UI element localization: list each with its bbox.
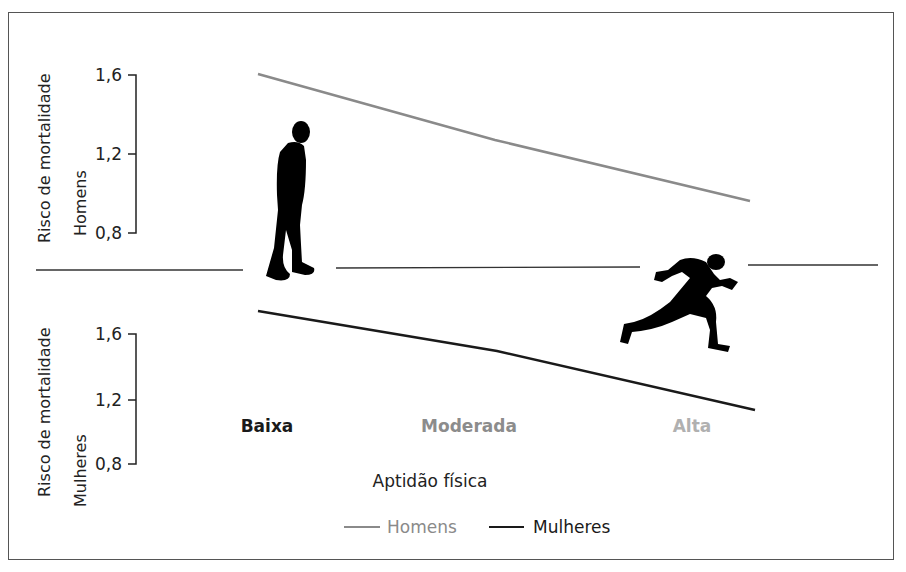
series-mulheres-line [258,311,755,410]
top-ytick-0-8: 0,8 [95,223,122,243]
x-axis-label: Aptidão física [373,471,488,491]
top-ylabel-line1: Risco de mortalidade [35,73,54,243]
top-ylabel-line2: Homens [71,170,90,236]
running-person-icon [620,254,738,352]
category-baixa: Baixa [241,416,294,436]
category-moderada: Moderada [421,416,517,436]
bottom-ytick-1-6: 1,6 [95,324,122,344]
bottom-y-axis: 1,6 1,2 0,8 [95,324,136,474]
chart: 1,6 1,2 0,8 Risco de mortalidade Homens … [0,0,906,572]
panel-divider [36,265,878,270]
legend-mulheres-label: Mulheres [533,517,610,537]
series-homens-line [258,74,750,201]
top-ytick-1-6: 1,6 [95,65,122,85]
bottom-ylabel-line2: Mulheres [71,434,90,507]
legend: Homens Mulheres [344,517,610,537]
walking-person-icon [266,121,314,280]
top-y-axis: 1,6 1,2 0,8 [95,65,136,243]
bottom-ylabel-line1: Risco de mortalidade [35,327,54,497]
legend-homens-label: Homens [387,517,457,537]
category-alta: Alta [673,416,712,436]
bottom-ytick-0-8: 0,8 [95,454,122,474]
top-ytick-1-2: 1,2 [95,144,122,164]
bottom-ytick-1-2: 1,2 [95,390,122,410]
